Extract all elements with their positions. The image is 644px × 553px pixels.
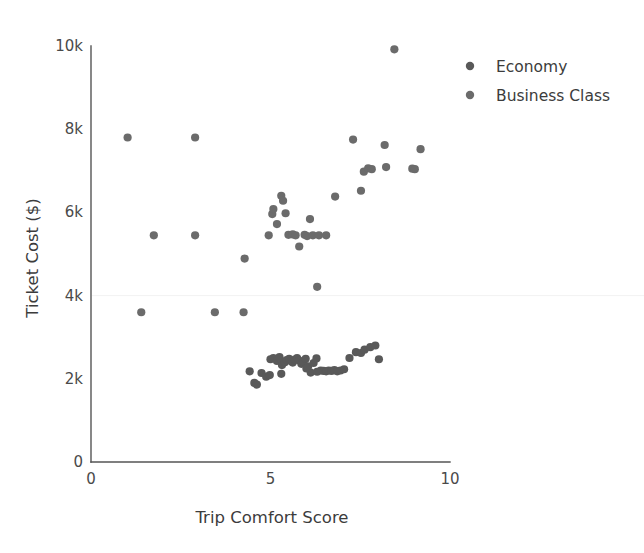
- data-point: [381, 141, 389, 149]
- data-point: [345, 354, 353, 362]
- data-point: [371, 341, 379, 349]
- data-point-group: [124, 45, 425, 388]
- data-point: [315, 231, 323, 239]
- y-tick-label: 2k: [65, 370, 84, 388]
- data-point: [357, 187, 365, 195]
- data-point: [137, 308, 145, 316]
- y-tick-label: 6k: [65, 203, 84, 221]
- data-point: [382, 163, 390, 171]
- data-point: [416, 145, 424, 153]
- x-axis-title: Trip Comfort Score: [194, 508, 348, 527]
- data-point: [302, 364, 310, 372]
- data-point: [312, 354, 320, 362]
- data-point: [191, 133, 199, 141]
- data-point: [349, 136, 357, 144]
- data-point: [265, 231, 273, 239]
- y-tick-label-group: 02k4k6k8k10k: [55, 37, 83, 471]
- data-point: [239, 308, 247, 316]
- legend-marker-icon: [466, 91, 474, 99]
- data-point: [331, 192, 339, 200]
- data-point: [340, 365, 348, 373]
- data-point: [241, 254, 249, 262]
- data-point: [191, 231, 199, 239]
- data-point: [292, 231, 300, 239]
- axis-lines: [91, 46, 450, 462]
- data-point: [211, 308, 219, 316]
- x-tick-label: 5: [266, 470, 276, 488]
- data-point: [279, 197, 287, 205]
- y-tick-label: 10k: [55, 37, 83, 55]
- legend-item-economy[interactable]: Economy: [466, 58, 568, 76]
- data-point: [375, 355, 383, 363]
- data-point: [295, 242, 303, 250]
- legend-marker-icon: [466, 62, 474, 70]
- y-tick-label: 4k: [65, 287, 84, 305]
- plot-canvas: 02k4k6k8k10k 0510 Ticket Cost ($) Trip C…: [0, 0, 644, 553]
- legend-item-business-class[interactable]: Business Class: [466, 87, 610, 105]
- data-point: [273, 220, 281, 228]
- series-economy: [246, 341, 383, 388]
- data-point: [253, 381, 261, 389]
- legend: EconomyBusiness Class: [466, 58, 610, 105]
- y-tick-label: 8k: [65, 120, 84, 138]
- y-tick-label: 0: [73, 453, 83, 471]
- legend-label: Business Class: [496, 87, 610, 105]
- data-point: [313, 283, 321, 291]
- x-tick-label: 10: [440, 470, 459, 488]
- data-point: [246, 367, 254, 375]
- data-point: [313, 368, 321, 376]
- scatter-chart-figure: 02k4k6k8k10k 0510 Ticket Cost ($) Trip C…: [0, 0, 644, 553]
- legend-label: Economy: [496, 58, 567, 76]
- data-point: [306, 215, 314, 223]
- x-tick-label-group: 0510: [86, 470, 459, 488]
- data-point: [124, 133, 132, 141]
- data-point: [411, 165, 419, 173]
- data-point: [322, 231, 330, 239]
- data-point: [269, 205, 277, 213]
- series-business-class: [124, 45, 425, 316]
- data-point: [368, 165, 376, 173]
- data-point: [277, 370, 285, 378]
- data-point: [281, 209, 289, 217]
- data-point: [390, 45, 398, 53]
- data-point: [150, 231, 158, 239]
- data-point: [302, 355, 310, 363]
- y-axis-title: Ticket Cost ($): [23, 198, 42, 318]
- x-tick-label: 0: [86, 470, 96, 488]
- data-point: [266, 371, 274, 379]
